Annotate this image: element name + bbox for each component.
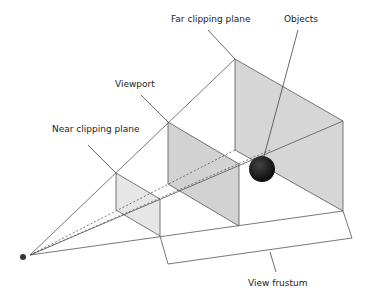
near-clipping-plane [116, 173, 160, 236]
viewport-plane [168, 122, 239, 226]
object-sphere [249, 156, 275, 182]
view-frustum-diagram: Far clipping plane Objects Viewport Near… [0, 0, 369, 302]
view-frustum-bracket [160, 211, 352, 264]
far-clipping-plane [235, 59, 343, 211]
label-objects: Objects [284, 14, 318, 24]
label-viewport: Viewport [115, 79, 155, 89]
label-far-clipping-plane: Far clipping plane [171, 14, 251, 24]
label-view-frustum: View frustum [248, 278, 307, 288]
camera-eye-icon [20, 254, 26, 260]
label-near-clipping-plane: Near clipping plane [52, 124, 139, 134]
frustum-drawing [0, 0, 369, 302]
